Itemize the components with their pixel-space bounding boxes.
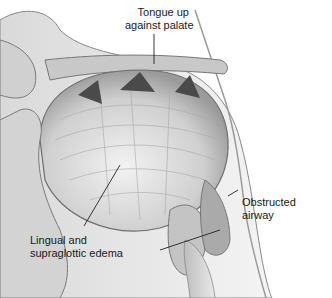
- tongue: [40, 70, 228, 231]
- label-tongue-line1: Tongue up: [125, 6, 194, 19]
- label-airway-line2: airway: [242, 209, 296, 222]
- label-tongue-up: Tongue up against palate: [125, 6, 194, 32]
- label-edema-line1: Lingual and: [30, 234, 123, 247]
- label-obstructed-airway: Obstructed airway: [242, 196, 296, 222]
- label-airway-line1: Obstructed: [242, 196, 296, 209]
- label-lingual-edema: Lingual and supraglottic edema: [30, 234, 123, 260]
- label-tongue-line2: against palate: [125, 19, 194, 32]
- label-edema-line2: supraglottic edema: [30, 247, 123, 260]
